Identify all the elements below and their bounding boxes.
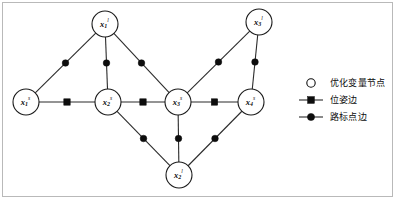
legend: 优化变量节点 位姿边 路标点边 (296, 74, 392, 125)
landmark-edge-marker (138, 60, 145, 67)
legend-item-landmark-edge: 路标点边 (296, 108, 392, 125)
edge-markers-layer (62, 59, 258, 142)
landmark-edge-marker (140, 135, 147, 142)
nodes-layer: x1sx2sx3sx4sx1lx3lx2l (13, 9, 272, 188)
landmark-edge-marker (215, 59, 222, 66)
legend-label-landmark-edge: 路标点边 (330, 110, 367, 123)
edges-layer (35, 31, 257, 166)
legend-item-pose-edge: 位姿边 (296, 91, 392, 108)
pose-edge-marker (64, 99, 70, 105)
landmark-edge-marker (252, 59, 259, 66)
pose-edge-marker (211, 99, 217, 105)
line-circle-icon (296, 110, 326, 124)
landmark-edge-marker (175, 135, 182, 142)
open-circle-icon (296, 76, 326, 90)
pose-edge-marker (140, 99, 146, 105)
landmark-edge-marker (103, 60, 110, 67)
landmark-edge-marker (62, 60, 69, 67)
figure-page: x1sx2sx3sx4sx1lx3lx2l 优化变量节点 位姿边 (0, 0, 396, 200)
legend-label-pose-edge: 位姿边 (330, 93, 358, 106)
line-square-icon (296, 93, 326, 107)
legend-item-node: 优化变量节点 (296, 74, 392, 91)
landmark-edge-marker (212, 135, 219, 142)
legend-label-node: 优化变量节点 (330, 76, 385, 89)
